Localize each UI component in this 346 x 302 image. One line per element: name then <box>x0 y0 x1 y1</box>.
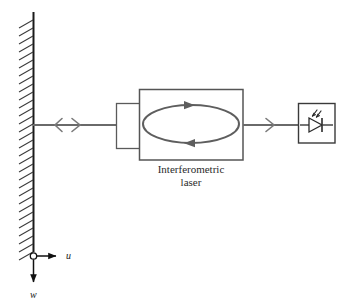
diagram-canvas: Interferometric laser <box>0 0 346 302</box>
photodiode-detector-box <box>299 104 336 144</box>
coupler-box <box>117 104 141 149</box>
interferometric-laser-box <box>140 90 244 161</box>
axis-u-label: u <box>66 250 71 261</box>
laser-label-line1: Interferometric <box>158 163 225 175</box>
fixed-wall <box>19 12 34 260</box>
laser-label-line2: laser <box>181 176 202 188</box>
coordinate-origin <box>30 253 36 259</box>
coordinate-system: u w <box>30 250 71 300</box>
wall-hatching <box>19 20 33 260</box>
axis-w-label: w <box>30 289 37 300</box>
schematic-svg: Interferometric laser <box>0 0 346 302</box>
